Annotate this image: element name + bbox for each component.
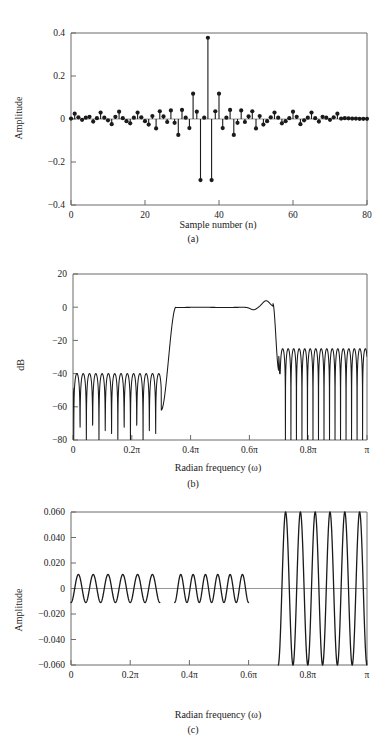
stem-marker (324, 116, 328, 120)
stem-marker (346, 116, 350, 120)
stem-marker (73, 112, 77, 116)
stem-marker (339, 116, 343, 120)
plot-b-magnitude-curve (73, 301, 367, 440)
plot-c-ytick: −0.040 (38, 635, 65, 645)
plot-a-ylabel: Amplitude (13, 96, 24, 139)
plot-b-xtick: 0 (71, 445, 76, 455)
plot-c-ytick: −0.020 (38, 609, 65, 619)
stem-marker (113, 115, 117, 119)
plot-c-ytick: 0.060 (44, 507, 66, 517)
plot-b-xtick: 0.2π (123, 445, 140, 455)
stem-marker (239, 108, 243, 112)
stem-marker (84, 116, 88, 120)
plot-a-xlabel: Sample number (n) (179, 219, 256, 231)
stem-marker (224, 116, 228, 120)
plot-c-ytick: 0 (60, 584, 65, 594)
stem-marker (247, 114, 251, 118)
plot-c-xtick: 0.6π (240, 670, 257, 680)
plot-b-ytick: 20 (58, 269, 68, 279)
stem-marker (184, 116, 188, 120)
plot-a-svg: Amplitude −0.4−0.200.20.4 020406080 Samp… (0, 0, 386, 250)
stem-marker (154, 126, 158, 130)
stem-marker (69, 116, 73, 120)
stem-marker (265, 119, 269, 123)
plot-a-ytick: −0.2 (48, 157, 65, 167)
stem-marker (350, 116, 354, 120)
stem-marker (365, 117, 369, 121)
plot-c-ylabel: Amplitude (13, 588, 24, 631)
stem-marker (250, 109, 254, 113)
plot-a-xtick: 60 (288, 210, 298, 220)
stem-marker (95, 116, 99, 120)
plot-b-xtick: 0.6π (241, 445, 258, 455)
stem-marker (136, 110, 140, 114)
plot-b-ylabel-group: dB (15, 359, 26, 371)
plot-c-xtick: 0.4π (181, 670, 198, 680)
panel-b-log-magnitude: dB −80−60−40−20020 00.2π0.4π0.6π0.8ππ Ra… (0, 250, 386, 495)
stem-marker (99, 110, 103, 114)
stem-marker (169, 108, 173, 112)
plot-c-xtick: π (365, 670, 370, 680)
stem-marker (139, 115, 143, 119)
stem-marker (187, 126, 191, 130)
plot-b-ylabel: dB (15, 359, 26, 371)
stem-marker (317, 119, 321, 123)
plot-b-ytick: 0 (62, 303, 67, 313)
stem-marker (128, 121, 132, 125)
stem-marker (213, 109, 217, 113)
plot-c-xtick-labels: 00.2π0.4π0.6π0.8ππ (69, 670, 370, 680)
stem-marker (87, 115, 91, 119)
panel-c-approximation-error: Amplitude −0.060−0.040−0.02000.0200.0400… (0, 490, 386, 741)
plot-c-ytick: 0.040 (44, 533, 66, 543)
stem-marker (335, 112, 339, 116)
plot-c-xtick: 0.2π (122, 670, 139, 680)
plot-b-ytick: −20 (52, 336, 67, 346)
stem-marker (210, 178, 214, 182)
stem-marker (147, 122, 151, 126)
stem-marker (191, 92, 195, 96)
plot-b-ytick: −80 (52, 435, 67, 445)
stem-marker (76, 115, 80, 119)
plot-c-ytick: 0.020 (44, 558, 66, 568)
stem-marker (258, 114, 262, 118)
plot-c-xtick: 0.8π (299, 670, 316, 680)
stem-marker (321, 115, 325, 119)
plot-a-ytick: −0.4 (48, 200, 65, 210)
stem-marker (176, 133, 180, 137)
plot-c-xtick: 0 (69, 670, 74, 680)
stem-marker (354, 116, 358, 120)
stem-marker (195, 110, 199, 114)
plot-b-xtick: π (365, 445, 370, 455)
stem-marker (158, 109, 162, 113)
plot-b-xtick: 0.4π (182, 445, 199, 455)
stem-marker (243, 120, 247, 124)
stem-marker (309, 110, 313, 114)
plot-c-xlabel: Radian frequency (ω) (175, 709, 262, 721)
stem-marker (106, 118, 110, 122)
stem-marker (102, 116, 106, 120)
stem-marker (117, 110, 121, 114)
stem-marker (328, 118, 332, 122)
plot-b-ytick: −60 (52, 402, 67, 412)
plot-b-xtick-labels: 00.2π0.4π0.6π0.8ππ (71, 445, 370, 455)
stem-marker (80, 118, 84, 122)
stem-marker (284, 119, 288, 123)
stem-marker (180, 108, 184, 112)
stem-marker (124, 119, 128, 123)
plot-a-ylabel-group: Amplitude (13, 96, 24, 139)
stem-marker (121, 116, 125, 120)
plot-b-xlabel: Radian frequency (ω) (175, 462, 262, 474)
stem-marker (161, 114, 165, 118)
plot-b-ytick-labels: −80−60−40−20020 (52, 269, 67, 445)
plot-a-xtick: 0 (69, 210, 74, 220)
stem-marker (276, 116, 280, 120)
stem-marker (165, 120, 169, 124)
stem-marker (110, 122, 114, 126)
magnitude-response-path (73, 301, 367, 440)
plot-a-ytick: 0.4 (53, 28, 65, 38)
plot-a-xtick: 20 (140, 210, 150, 220)
stem-marker (217, 92, 221, 96)
panel-a-impulse-response: Amplitude −0.4−0.200.20.4 020406080 Samp… (0, 0, 386, 250)
panel-a-caption: (a) (0, 233, 386, 244)
stem-marker (232, 133, 236, 137)
